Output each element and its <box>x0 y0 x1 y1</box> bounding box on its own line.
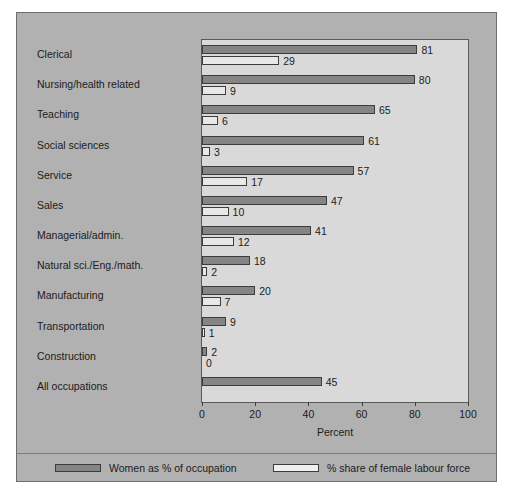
category-label: Nursing/health related <box>37 78 189 90</box>
bar-occupation-share <box>202 286 255 295</box>
bar-value-label: 18 <box>254 256 266 266</box>
category-label: Service <box>37 169 189 181</box>
x-tick <box>362 402 363 406</box>
bar-value-label: 2 <box>211 267 217 277</box>
category-label: Transportation <box>37 320 189 332</box>
bar-value-label: 6 <box>222 116 228 126</box>
bar-labour-force-share <box>202 56 279 65</box>
category-label: Sales <box>37 199 189 211</box>
legend-label: Women as % of occupation <box>109 462 237 474</box>
bar-value-label: 0 <box>206 358 212 368</box>
category-label: All occupations <box>37 380 189 392</box>
legend-entry[interactable]: % share of female labour force <box>273 462 470 474</box>
bar-occupation-share <box>202 166 354 175</box>
bar-occupation-share <box>202 226 311 235</box>
bar-value-label: 65 <box>379 105 391 115</box>
category-label: Managerial/admin. <box>37 229 189 241</box>
legend-swatch-icon <box>55 464 101 472</box>
x-tick <box>308 402 309 406</box>
x-tick-label: 20 <box>249 408 261 420</box>
bar-value-label: 61 <box>368 136 380 146</box>
legend-label: % share of female labour force <box>327 462 470 474</box>
x-tick-label: 0 <box>199 408 205 420</box>
x-tick <box>468 402 469 406</box>
legend-entry[interactable]: Women as % of occupation <box>55 462 237 474</box>
bar-value-label: 2 <box>211 347 217 357</box>
plot-area: 8129809656613571747104112182207912045 <box>201 39 469 403</box>
x-tick <box>255 402 256 406</box>
bar-value-label: 41 <box>315 226 327 236</box>
bar-labour-force-share <box>202 207 229 216</box>
bar-value-label: 7 <box>225 297 231 307</box>
bar-value-label: 10 <box>233 207 245 217</box>
x-tick <box>202 402 203 406</box>
bar-occupation-share <box>202 45 417 54</box>
bar-occupation-share <box>202 256 250 265</box>
bar-value-label: 3 <box>214 147 220 157</box>
bar-labour-force-share <box>202 237 234 246</box>
x-axis: Percent 020406080100 <box>201 402 469 442</box>
bar-value-label: 17 <box>251 177 263 187</box>
category-label: Natural sci./Eng./math. <box>37 259 189 271</box>
bar-occupation-share <box>202 75 415 84</box>
category-label: Teaching <box>37 108 189 120</box>
bar-labour-force-share <box>202 297 221 306</box>
bar-occupation-share <box>202 196 327 205</box>
x-tick <box>415 402 416 406</box>
chart-figure: ClericalNursing/health relatedTeachingSo… <box>16 12 497 482</box>
x-tick-label: 80 <box>409 408 421 420</box>
x-tick-label: 40 <box>303 408 315 420</box>
bar-value-label: 80 <box>419 75 431 85</box>
category-label: Manufacturing <box>37 289 189 301</box>
bar-labour-force-share <box>202 267 207 276</box>
bar-labour-force-share <box>202 328 205 337</box>
bar-value-label: 9 <box>230 86 236 96</box>
legend-swatch-icon <box>273 464 319 472</box>
bar-occupation-share <box>202 105 375 114</box>
bar-labour-force-share <box>202 86 226 95</box>
bar-labour-force-share <box>202 116 218 125</box>
category-label: Construction <box>37 350 189 362</box>
bar-labour-force-share <box>202 177 247 186</box>
bar-value-label: 81 <box>421 45 433 55</box>
bar-value-label: 47 <box>331 196 343 206</box>
bar-occupation-share <box>202 317 226 326</box>
x-axis-title: Percent <box>201 426 469 438</box>
bar-value-label: 29 <box>283 56 295 66</box>
x-tick-label: 100 <box>459 408 477 420</box>
bar-occupation-share <box>202 347 207 356</box>
bar-value-label: 9 <box>230 317 236 327</box>
category-label: Social sciences <box>37 139 189 151</box>
category-label: Clerical <box>37 48 189 60</box>
bar-labour-force-share <box>202 147 210 156</box>
bar-value-label: 12 <box>238 237 250 247</box>
bar-occupation-share <box>202 377 322 386</box>
chart-legend: Women as % of occupation% share of femal… <box>17 453 496 482</box>
bar-value-label: 57 <box>358 166 370 176</box>
x-tick-label: 60 <box>356 408 368 420</box>
bar-value-label: 1 <box>209 328 215 338</box>
category-label-column: ClericalNursing/health relatedTeachingSo… <box>17 39 197 401</box>
bar-occupation-share <box>202 136 364 145</box>
bar-value-label: 20 <box>259 286 271 296</box>
bar-value-label: 45 <box>326 377 338 387</box>
